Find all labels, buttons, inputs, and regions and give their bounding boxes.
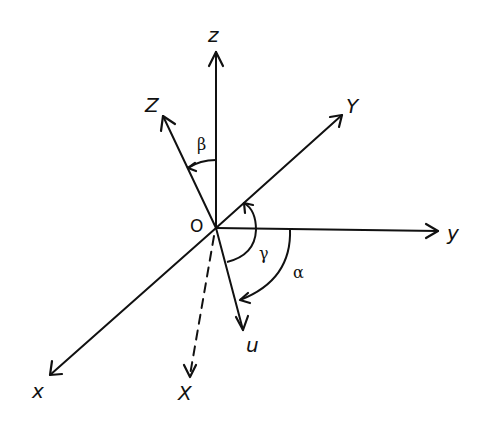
angle-alpha-label: α <box>293 263 304 282</box>
axis-x: x <box>31 228 216 403</box>
angle-gamma-label: γ <box>259 244 269 263</box>
angle-beta: β <box>188 135 216 171</box>
coordinate-diagram: z Z Y y x X u β <box>0 0 490 426</box>
axis-z: z <box>207 23 223 228</box>
axis-Z-label: Z <box>144 93 160 117</box>
axis-X: X <box>177 236 214 405</box>
axis-X-label: X <box>177 381 193 405</box>
axis-Y: Y <box>216 94 360 228</box>
axis-z-label: z <box>207 23 219 47</box>
origin-label: O <box>190 216 203 236</box>
angle-alpha: α <box>240 229 304 303</box>
axis-x-label: x <box>31 379 44 403</box>
vector-u-label: u <box>246 333 259 357</box>
angle-beta-label: β <box>197 135 206 154</box>
vector-u: u <box>216 228 259 357</box>
axis-y: y <box>216 221 460 245</box>
axis-y-label: y <box>446 221 460 245</box>
axis-Y-label: Y <box>346 94 360 118</box>
